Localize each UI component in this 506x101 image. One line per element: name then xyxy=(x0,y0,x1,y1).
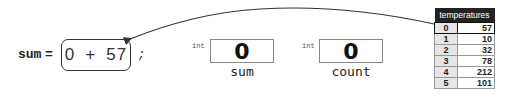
array-row: 3 78 xyxy=(435,56,495,67)
expression-box: 0 + 57 xyxy=(61,39,131,71)
array-row: 1 10 xyxy=(435,34,495,45)
variable-box-count: 0 xyxy=(319,39,383,63)
expression-right-operand: 57 xyxy=(106,45,127,65)
array-index: 2 xyxy=(435,45,458,56)
expression-left-operand: 0 xyxy=(65,45,75,65)
array-row: 5 101 xyxy=(435,78,495,89)
array-index: 1 xyxy=(435,34,458,45)
statement-terminator: ; xyxy=(138,48,145,62)
array-row: 4 212 xyxy=(435,67,495,78)
assignment-target: sum xyxy=(18,47,41,62)
array-value: 10 xyxy=(458,34,495,45)
variable-name-count: count xyxy=(319,64,383,79)
array-index: 0 xyxy=(435,23,458,34)
array-value: 78 xyxy=(458,56,495,67)
expression-operator: + xyxy=(85,45,96,65)
variable-type-sum: int xyxy=(192,42,205,50)
array-value: 32 xyxy=(458,45,495,56)
variable-name-sum: sum xyxy=(210,64,274,79)
array-value: 57 xyxy=(458,23,495,34)
variable-box-sum: 0 xyxy=(210,39,274,63)
variable-type-count: int xyxy=(302,42,315,50)
array-index: 3 xyxy=(435,56,458,67)
array-row: 2 32 xyxy=(435,45,495,56)
array-temperatures: temperatures 0 57 1 10 2 32 3 78 4 212 5… xyxy=(434,8,495,89)
array-index: 5 xyxy=(435,78,458,89)
assignment-operator: = xyxy=(45,47,53,62)
array-value: 101 xyxy=(458,78,495,89)
array-index: 4 xyxy=(435,67,458,78)
array-value: 212 xyxy=(458,67,495,78)
array-title: temperatures xyxy=(435,8,495,23)
array-row: 0 57 xyxy=(435,23,495,34)
